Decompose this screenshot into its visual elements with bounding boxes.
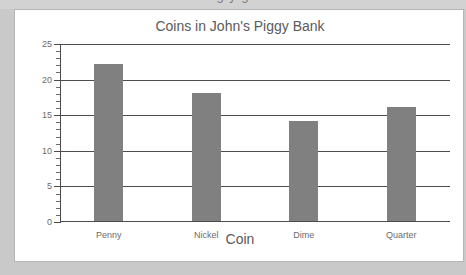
y-tick-minor [56, 165, 60, 166]
y-tick-major [54, 186, 60, 187]
y-tick-minor [56, 144, 60, 145]
y-tick-minor [56, 58, 60, 59]
y-tick-minor [56, 122, 60, 123]
bar-nickel [192, 93, 221, 221]
y-tick-minor [56, 201, 60, 202]
y-tick-major [54, 80, 60, 81]
y-tick-minor [56, 129, 60, 130]
y-tick-minor [56, 51, 60, 52]
y-tick-label: 25 [42, 39, 52, 49]
y-tick-minor [56, 172, 60, 173]
y-tick-minor [56, 72, 60, 73]
y-tick-minor [56, 194, 60, 195]
clipped-text-above-figure: g y g [0, 0, 466, 9]
y-tick-label: 15 [42, 110, 52, 120]
y-tick-minor [56, 101, 60, 102]
y-tick-minor [56, 158, 60, 159]
bar-dime [289, 121, 318, 221]
y-tick-label: 20 [42, 75, 52, 85]
y-tick-minor [56, 208, 60, 209]
chart-title: Coins in John's Piggy Bank [15, 18, 465, 34]
y-tick-label: 10 [42, 146, 52, 156]
x-axis-title: Coin [15, 231, 465, 247]
gridline [60, 44, 450, 45]
bar-quarter [387, 107, 416, 221]
y-axis-line [60, 44, 61, 223]
y-tick-minor [56, 94, 60, 95]
y-tick-minor [56, 215, 60, 216]
y-tick-label: 0 [47, 217, 52, 227]
y-tick-minor [56, 108, 60, 109]
y-tick-major [54, 151, 60, 152]
y-tick-major [54, 115, 60, 116]
y-tick-major [54, 44, 60, 45]
y-tick-minor [56, 179, 60, 180]
x-axis-line [60, 221, 450, 222]
y-tick-minor [56, 137, 60, 138]
bar-penny [94, 64, 123, 221]
y-tick-minor [56, 87, 60, 88]
plot-area: 0510152025 PennyNickelDimeQuarter [60, 44, 450, 222]
y-tick-major [54, 222, 60, 223]
clipped-text-glyphs: g y g [0, 0, 466, 3]
chart-figure: Coins in John's Piggy Bank Number of coi… [14, 9, 464, 262]
y-tick-minor [56, 65, 60, 66]
y-tick-label: 5 [47, 181, 52, 191]
